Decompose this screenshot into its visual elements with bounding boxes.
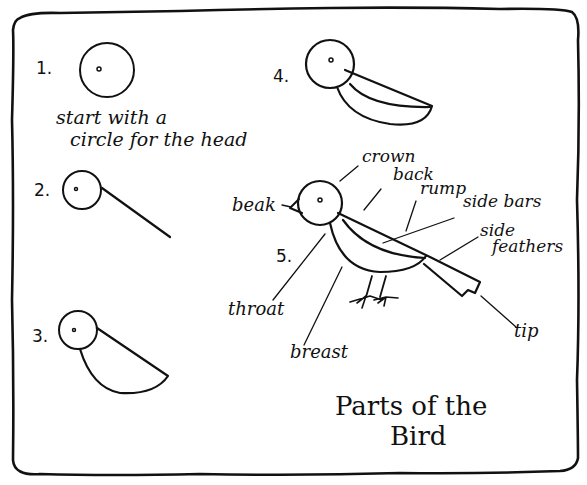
label-breast: breast bbox=[290, 343, 348, 361]
step3-head-and-body bbox=[59, 311, 168, 393]
step2-head-and-back bbox=[63, 171, 170, 237]
diagram-title-line2: Bird bbox=[390, 423, 447, 449]
bird-drawing-diagram: 1. 2. 3. 4. 5. start with a circle for t… bbox=[0, 0, 587, 485]
step4-head-body-wing bbox=[306, 40, 432, 125]
step1-caption-line1: start with a bbox=[56, 108, 167, 127]
step-number-4: 4. bbox=[273, 66, 289, 86]
label-throat: throat bbox=[228, 300, 284, 318]
label-side-bars: side bars bbox=[463, 193, 541, 210]
step-number-5: 5. bbox=[276, 246, 292, 266]
step-number-3: 3. bbox=[32, 326, 48, 346]
label-rump: rump bbox=[420, 180, 466, 197]
label-crown: crown bbox=[362, 148, 415, 165]
label-beak: beak bbox=[232, 196, 276, 214]
label-side-feathers-line2: feathers bbox=[492, 238, 563, 255]
step-number-2: 2. bbox=[34, 180, 50, 200]
step5-complete-bird bbox=[290, 181, 480, 308]
diagram-title-line1: Parts of the bbox=[335, 393, 487, 419]
step-number-1: 1. bbox=[36, 58, 52, 78]
label-tip: tip bbox=[514, 322, 539, 340]
step1-head-circle bbox=[80, 43, 134, 97]
step1-caption-line2: circle for the head bbox=[70, 130, 248, 149]
